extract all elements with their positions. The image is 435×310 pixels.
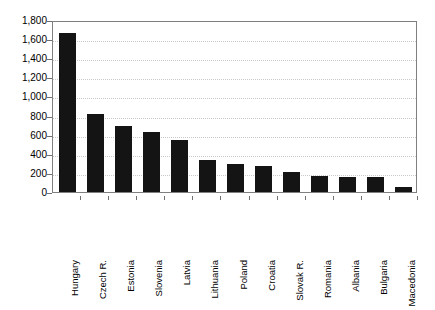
x-axis-tick (277, 196, 278, 200)
x-axis-tick (249, 196, 250, 200)
x-axis-tick-label: Slovenia (154, 260, 164, 310)
x-axis-tick (108, 196, 109, 200)
bar (339, 177, 356, 192)
bars-layer (53, 22, 416, 192)
plot-area (52, 21, 417, 193)
y-axis-tick-label: 1,800 (0, 16, 47, 26)
y-axis-tick-label: 200 (0, 169, 47, 179)
bar (171, 140, 188, 192)
y-axis-tick-label: 1,400 (0, 54, 47, 64)
bar (367, 177, 384, 192)
x-axis-tick-label: Macedonia (407, 260, 417, 310)
bar (115, 126, 132, 192)
x-axis-tick (80, 196, 81, 200)
bar (227, 164, 244, 192)
y-axis-tick-label: 0 (0, 188, 47, 198)
x-axis-tick (192, 196, 193, 200)
x-axis-tick (389, 196, 390, 200)
bar (59, 33, 76, 192)
x-axis-tick (136, 196, 137, 200)
x-axis-tick (417, 196, 418, 200)
x-axis-tick-label: Croatia (267, 260, 277, 310)
y-axis-tick-label: 800 (0, 112, 47, 122)
y-axis-tick-label: 1,600 (0, 35, 47, 45)
x-axis-tick-label: Czech R. (98, 260, 108, 310)
bar (199, 160, 216, 192)
x-axis-tick-label: Estonia (126, 260, 136, 310)
x-axis-tick (361, 196, 362, 200)
bar (311, 176, 328, 192)
x-axis-tick-label: Romania (323, 260, 333, 310)
bar (395, 187, 412, 192)
x-axis: HungaryCzech R.EstoniaSloveniaLatviaLith… (52, 196, 417, 263)
x-axis-tick (333, 196, 334, 200)
y-axis-tick (47, 193, 52, 194)
bar (283, 172, 300, 192)
bar (87, 114, 104, 192)
y-axis-tick-label: 1,000 (0, 92, 47, 102)
x-axis-tick (220, 196, 221, 200)
y-axis: 02004006008001,0001,2001,4001,6001,800 (0, 0, 47, 263)
y-axis-tick-label: 1,200 (0, 73, 47, 83)
x-axis-tick-label: Hungary (70, 260, 80, 310)
bar (255, 166, 272, 192)
x-axis-tick-label: Bulgaria (379, 260, 389, 310)
y-axis-tick-label: 400 (0, 150, 47, 160)
x-axis-tick-label: Slovak R. (295, 260, 305, 310)
x-axis-tick-label: Poland (239, 260, 249, 310)
x-axis-tick-label: Latvia (182, 260, 192, 310)
x-axis-tick-label: Albania (351, 260, 361, 310)
x-axis-tick (305, 196, 306, 200)
bar (143, 132, 160, 192)
x-axis-tick (164, 196, 165, 200)
y-axis-tick-label: 600 (0, 131, 47, 141)
x-axis-tick-label: Lithuania (210, 260, 220, 310)
